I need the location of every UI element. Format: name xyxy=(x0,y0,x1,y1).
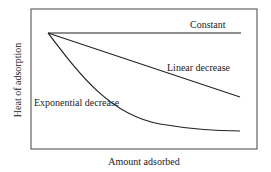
exponential-decrease-curve xyxy=(48,33,240,131)
linear-decrease-label: Linear decrease xyxy=(167,62,231,73)
y-axis-label: Heat of adsorption xyxy=(12,43,23,117)
chart: Constant Linear decrease Exponential dec… xyxy=(0,0,271,172)
exponential-decrease-label: Exponential decrease xyxy=(34,97,120,108)
constant-label: Constant xyxy=(190,19,226,30)
x-axis-label: Amount adsorbed xyxy=(108,156,179,167)
plot-frame xyxy=(31,9,257,149)
